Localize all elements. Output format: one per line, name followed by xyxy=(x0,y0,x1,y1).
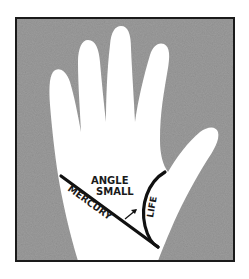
palmistry-figure: ANGLE SMALL MERCURY LIFE xyxy=(0,0,249,279)
label-small: SMALL xyxy=(96,186,134,197)
label-angle: ANGLE xyxy=(91,175,129,186)
hand-diagram: ANGLE SMALL MERCURY LIFE xyxy=(0,0,249,279)
